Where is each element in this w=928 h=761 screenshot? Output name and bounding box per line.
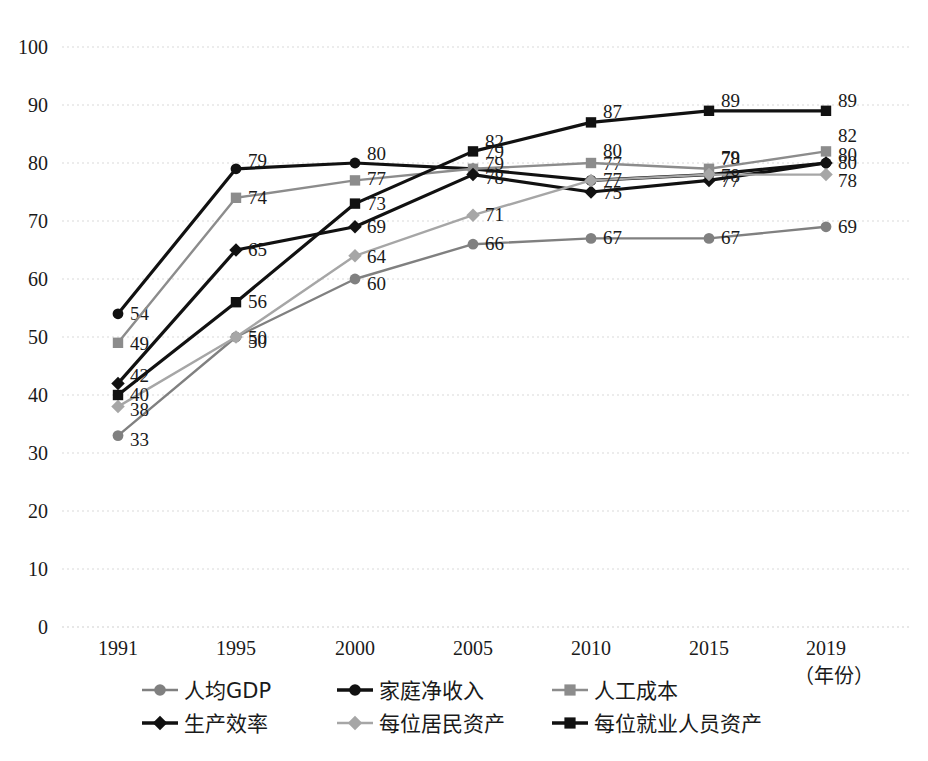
marker-square bbox=[350, 198, 360, 208]
data-label: 60 bbox=[367, 273, 386, 294]
data-label: 69 bbox=[838, 216, 857, 237]
marker-square bbox=[350, 175, 360, 185]
marker-square bbox=[821, 106, 831, 116]
marker-circle bbox=[821, 221, 832, 232]
marker-diamond bbox=[819, 168, 833, 182]
marker-square bbox=[704, 106, 714, 116]
y-tick-60: 60 bbox=[28, 268, 48, 290]
legend-label: 人工成本 bbox=[594, 679, 678, 703]
x-tick-2019: 2019 bbox=[806, 637, 846, 659]
legend: 人均GDP家庭净收入人工成本生产效率每位居民资产每位就业人员资产 bbox=[142, 679, 762, 736]
data-label: 87 bbox=[603, 101, 622, 122]
x-tick-2015: 2015 bbox=[689, 637, 729, 659]
legend-label: 每位就业人员资产 bbox=[594, 712, 762, 736]
marker-diamond bbox=[584, 185, 598, 199]
marker-square bbox=[586, 117, 596, 127]
marker-diamond bbox=[348, 220, 362, 234]
marker-circle bbox=[231, 163, 242, 174]
legend-label: 生产效率 bbox=[184, 712, 268, 736]
marker-diamond bbox=[466, 208, 480, 222]
x-tick-2000: 2000 bbox=[335, 637, 375, 659]
series-5 bbox=[111, 168, 833, 414]
marker-square bbox=[113, 338, 123, 348]
x-axis-title: （年份） bbox=[794, 665, 874, 687]
y-tick-20: 20 bbox=[28, 500, 48, 522]
data-label: 73 bbox=[367, 193, 386, 214]
data-label: 40 bbox=[130, 384, 149, 405]
data-label: 65 bbox=[248, 239, 267, 260]
legend-item-1[interactable]: 人均GDP bbox=[142, 679, 271, 703]
data-label: 69 bbox=[367, 216, 386, 237]
marker-square bbox=[231, 193, 241, 203]
y-tick-100: 100 bbox=[18, 36, 48, 58]
data-label: 66 bbox=[485, 233, 504, 254]
legend-item-2[interactable]: 家庭净收入 bbox=[337, 679, 484, 703]
marker-diamond bbox=[348, 716, 363, 731]
y-tick-30: 30 bbox=[28, 442, 48, 464]
marker-circle bbox=[154, 684, 166, 696]
marker-square bbox=[564, 684, 575, 695]
series-line bbox=[118, 227, 826, 436]
y-tick-50: 50 bbox=[28, 326, 48, 348]
data-label: 82 bbox=[838, 125, 857, 146]
x-tick-2010: 2010 bbox=[571, 637, 611, 659]
data-label: 78 bbox=[485, 167, 504, 188]
data-label: 89 bbox=[838, 90, 857, 111]
legend-item-6[interactable]: 每位就业人员资产 bbox=[552, 712, 762, 736]
y-tick-0: 0 bbox=[38, 616, 48, 638]
data-label: 67 bbox=[603, 227, 622, 248]
marker-diamond bbox=[819, 156, 833, 170]
data-label: 67 bbox=[721, 227, 740, 248]
data-label: 33 bbox=[130, 429, 149, 450]
marker-diamond bbox=[584, 174, 598, 188]
y-tick-10: 10 bbox=[28, 558, 48, 580]
series-1 bbox=[113, 221, 832, 441]
data-label: 80 bbox=[367, 143, 386, 164]
marker-square bbox=[468, 146, 478, 156]
x-tick-2005: 2005 bbox=[453, 637, 493, 659]
marker-circle bbox=[113, 308, 124, 319]
series-line bbox=[118, 163, 826, 383]
marker-circle bbox=[468, 239, 479, 250]
x-tick-1991: 1991 bbox=[98, 637, 138, 659]
marker-circle bbox=[350, 274, 361, 285]
x-tick-1995: 1995 bbox=[216, 637, 256, 659]
data-label: 79 bbox=[248, 150, 267, 171]
marker-square bbox=[564, 717, 575, 728]
data-label: 77 bbox=[603, 169, 622, 190]
marker-circle bbox=[113, 430, 124, 441]
data-label: 89 bbox=[721, 90, 740, 111]
y-tick-80: 80 bbox=[28, 152, 48, 174]
y-tick-90: 90 bbox=[28, 94, 48, 116]
data-label: 80 bbox=[603, 140, 622, 161]
marker-circle bbox=[704, 233, 715, 244]
marker-square bbox=[113, 390, 123, 400]
legend-label: 家庭净收入 bbox=[379, 679, 484, 703]
marker-square bbox=[586, 158, 596, 168]
y-tick-70: 70 bbox=[28, 210, 48, 232]
y-tick-40: 40 bbox=[28, 384, 48, 406]
data-label: 64 bbox=[367, 246, 387, 267]
marker-diamond bbox=[111, 400, 125, 414]
legend-item-4[interactable]: 生产效率 bbox=[142, 712, 268, 736]
legend-item-3[interactable]: 人工成本 bbox=[552, 679, 678, 703]
legend-label: 人均GDP bbox=[184, 679, 271, 703]
legend-label: 每位居民资产 bbox=[379, 712, 505, 736]
marker-circle bbox=[350, 158, 361, 169]
data-label: 78 bbox=[838, 170, 857, 191]
series-line bbox=[118, 175, 826, 407]
marker-circle bbox=[349, 684, 361, 696]
data-label: 82 bbox=[485, 131, 504, 152]
legend-item-5[interactable]: 每位居民资产 bbox=[337, 712, 505, 736]
data-label: 78 bbox=[721, 165, 740, 186]
data-label: 77 bbox=[367, 168, 386, 189]
data-label: 56 bbox=[248, 291, 267, 312]
marker-circle bbox=[586, 233, 597, 244]
chart-canvas: 0102030405060708090100199119952000200520… bbox=[0, 0, 928, 761]
marker-square bbox=[231, 297, 241, 307]
data-label: 50 bbox=[248, 327, 267, 348]
marker-diamond bbox=[348, 249, 362, 262]
data-label: 71 bbox=[485, 204, 504, 225]
marker-square bbox=[821, 146, 831, 156]
data-label: 74 bbox=[248, 187, 268, 208]
